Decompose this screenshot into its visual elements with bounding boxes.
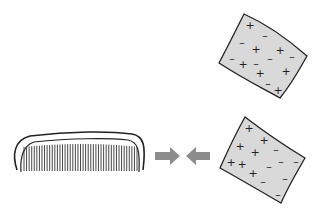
negative-charge-icon: – <box>229 52 235 65</box>
top-charged-sheet: +––++––+––++–+ <box>219 14 307 98</box>
positive-charge-icon: + <box>238 58 247 71</box>
positive-charge-icon: + <box>255 67 264 80</box>
positive-charge-icon: + <box>245 19 254 32</box>
comb-icon <box>15 132 145 172</box>
negative-charge-icon: – <box>265 77 271 90</box>
positive-charge-icon: + <box>237 158 246 171</box>
diagram-canvas: +––++––+––++–+ ++–++––++–+––– <box>0 0 318 217</box>
positive-charge-icon: + <box>275 44 284 57</box>
positive-charge-icon: + <box>248 167 257 180</box>
left-arrow-icon <box>186 147 210 165</box>
positive-charge-icon: + <box>250 146 259 159</box>
positive-charge-icon: + <box>273 84 282 97</box>
positive-charge-icon: + <box>244 122 253 135</box>
positive-charge-icon: + <box>235 140 244 153</box>
negative-charge-icon: – <box>262 29 268 42</box>
negative-charge-icon: – <box>266 160 272 173</box>
negative-charge-icon: – <box>278 155 284 168</box>
negative-charge-icon: – <box>267 52 273 65</box>
negative-charge-icon: – <box>239 36 245 49</box>
negative-charge-icon: – <box>275 188 281 201</box>
negative-charge-icon: – <box>260 175 266 188</box>
positive-charge-icon: + <box>259 134 268 147</box>
right-arrow-icon <box>155 147 180 165</box>
positive-charge-icon: + <box>226 156 235 169</box>
positive-charge-icon: + <box>251 43 260 56</box>
negative-charge-icon: – <box>293 155 299 168</box>
positive-charge-icon: + <box>281 65 290 78</box>
negative-charge-icon: – <box>282 172 288 185</box>
negative-charge-icon: – <box>289 50 295 63</box>
bottom-charged-sheet: ++–++––++–+––– <box>220 117 305 203</box>
